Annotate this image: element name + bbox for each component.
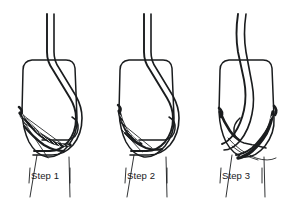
panel-label-step-1: Step 1 — [31, 170, 59, 181]
figure-container: Step 1 Step 2 Step 3 — [0, 0, 293, 199]
panel-label-step-2: Step 2 — [127, 170, 155, 181]
panel-label-step-3: Step 3 — [222, 170, 250, 181]
